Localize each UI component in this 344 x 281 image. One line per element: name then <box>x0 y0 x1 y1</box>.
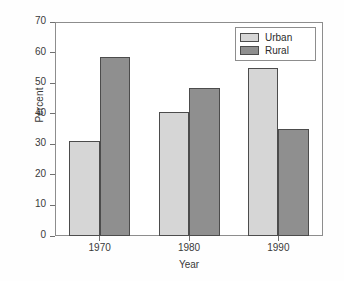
x-tick-label-1980: 1980 <box>149 242 229 253</box>
x-tick-mark <box>99 236 100 241</box>
bar-rural-1990 <box>278 129 309 236</box>
y-tick-mark <box>50 174 55 175</box>
bar-chart-figure: Percent 010203040506070197019801990 Urba… <box>0 0 344 281</box>
y-tick-mark <box>50 52 55 53</box>
y-tick-label: 0 <box>40 229 46 240</box>
y-tick-mark <box>50 22 55 23</box>
y-tick-label: 40 <box>35 107 46 118</box>
y-tick-mark <box>50 83 55 84</box>
legend-item-rural: Rural <box>240 44 309 57</box>
y-tick-label: 50 <box>35 76 46 87</box>
x-tick-mark <box>189 236 190 241</box>
legend-swatch-rural <box>240 46 259 55</box>
legend-swatch-urban <box>240 33 259 42</box>
legend-label-urban: Urban <box>265 32 292 43</box>
x-tick-mark <box>278 236 279 241</box>
y-tick-label: 10 <box>35 198 46 209</box>
x-tick-label-1970: 1970 <box>60 242 140 253</box>
bar-urban-1990 <box>248 68 279 236</box>
y-tick-label: 70 <box>35 15 46 26</box>
legend-label-rural: Rural <box>265 45 289 56</box>
y-tick-mark <box>50 144 55 145</box>
x-axis-title: Year <box>55 259 323 270</box>
bar-rural-1970 <box>100 57 131 236</box>
y-tick-mark <box>50 205 55 206</box>
y-tick-mark <box>50 113 55 114</box>
bar-urban-1980 <box>159 112 190 236</box>
y-tick-mark <box>50 236 55 237</box>
y-tick-label: 60 <box>35 46 46 57</box>
y-tick-label: 20 <box>35 168 46 179</box>
legend-item-urban: Urban <box>240 31 309 44</box>
bar-urban-1970 <box>69 141 100 236</box>
x-tick-label-1990: 1990 <box>238 242 318 253</box>
bar-rural-1980 <box>189 88 220 236</box>
y-tick-label: 30 <box>35 137 46 148</box>
chart-legend: UrbanRural <box>235 27 316 61</box>
